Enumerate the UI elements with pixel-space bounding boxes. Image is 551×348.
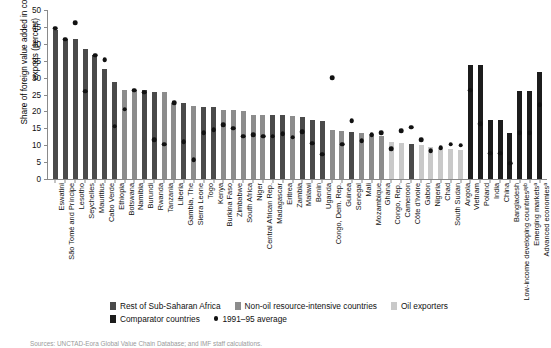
bar: [92, 55, 97, 179]
average-dot: [182, 140, 187, 145]
x-tick-label: Advanced economiesᵃ: [543, 183, 551, 256]
average-dot: [251, 133, 256, 138]
bar: [438, 148, 443, 179]
x-tick-label: Cameroon: [404, 183, 412, 218]
average-dot: [191, 158, 196, 163]
bar: [211, 107, 216, 179]
x-tick-label: Bangladesh: [513, 183, 521, 222]
x-tick-label: Chad: [444, 183, 452, 201]
y-axis-title: Share of foreign value added in countrie…: [19, 0, 41, 137]
average-dot: [83, 89, 88, 94]
bar: [409, 144, 414, 179]
x-tick-label: Kenya: [217, 183, 225, 204]
average-dot: [290, 135, 295, 140]
average-dot: [73, 20, 78, 25]
average-dot: [132, 88, 137, 93]
bar: [399, 143, 404, 179]
bar: [498, 120, 503, 179]
bar: [320, 121, 325, 179]
x-tick-label: Niger: [256, 183, 264, 201]
average-dot: [280, 132, 285, 137]
average-dot: [221, 123, 226, 128]
x-tick-label: Eritrea: [286, 183, 294, 205]
average-dot: [320, 152, 325, 157]
y-tick-mark: [44, 162, 47, 163]
bar: [290, 116, 295, 179]
x-tick-label: Congo, Dem. Rep.: [335, 183, 343, 244]
x-tick-label: Lesotho: [78, 183, 86, 209]
x-tick-label: Burkina Faso: [226, 183, 234, 227]
bar: [251, 115, 256, 179]
average-dot: [93, 53, 98, 58]
bar: [63, 39, 68, 179]
x-tick-label: Gambia, The: [187, 183, 195, 226]
x-tick-label: Botswana: [128, 183, 136, 215]
average-dot: [162, 142, 167, 147]
bar: [102, 69, 107, 179]
average-dot: [419, 138, 424, 143]
y-tick-mark: [44, 128, 47, 129]
x-axis-labels: EswatiniSão Tomé and PríncipeLesothoSeyc…: [47, 183, 547, 291]
x-tick-label: Sierra Leone: [197, 183, 205, 225]
plot-area: 05101520253035404550: [47, 10, 547, 179]
x-tick-label: Cabo Verde: [108, 183, 116, 222]
bar: [330, 130, 335, 179]
y-tick-mark: [44, 61, 47, 62]
average-dot: [53, 26, 58, 31]
legend-item[interactable]: Non-oil resource-intensive countries: [235, 301, 377, 311]
bar: [83, 49, 88, 179]
legend-row-secondary: Comparator countries1991–95 average: [110, 312, 530, 325]
x-tick-label: Liberia: [177, 183, 185, 205]
x-tick-label: Senegal: [355, 183, 363, 210]
x-tick-label: Mali: [365, 183, 373, 197]
average-dot: [409, 125, 414, 130]
y-tick-mark: [44, 44, 47, 45]
source-note: Sources: UNCTAD-Eora Global Value Chain …: [30, 340, 262, 347]
bar: [260, 115, 265, 179]
legend-dot-icon: [214, 316, 219, 321]
legend-item[interactable]: Comparator countries: [110, 314, 200, 324]
x-tick-label: Low-income developing countriesᵃʸᵇ: [523, 183, 531, 301]
bar: [132, 90, 137, 179]
legend-swatch-icon: [235, 302, 241, 310]
y-tick-label: 35: [21, 56, 41, 65]
y-tick-label: 50: [21, 6, 41, 15]
y-tick-mark: [44, 27, 47, 28]
x-tick-label: Zimbabwe: [236, 183, 244, 217]
x-tick-label: Emerging marketsᵃ: [533, 183, 541, 246]
x-tick-label: South Sudan: [454, 183, 462, 226]
bar: [122, 90, 127, 179]
average-dot: [498, 151, 503, 156]
x-tick-label: Nigeria: [434, 183, 442, 206]
y-tick-label: 0: [21, 175, 41, 184]
bar: [369, 134, 374, 179]
x-tick-label: Rwanda: [157, 183, 165, 210]
average-dot: [103, 57, 108, 62]
legend-item[interactable]: Rest of Sub-Saharan Africa: [110, 301, 221, 311]
legend-item[interactable]: Oil exporters: [391, 301, 448, 311]
x-tick-label: Mozambique: [375, 183, 383, 225]
bar: [171, 103, 176, 179]
y-tick-label: 5: [21, 158, 41, 167]
x-tick-label: Benin: [315, 183, 323, 202]
legend-item[interactable]: 1991–95 average: [214, 314, 287, 324]
y-tick-mark: [44, 145, 47, 146]
bar: [53, 30, 58, 179]
average-dot: [359, 139, 364, 144]
average-dot: [172, 100, 177, 105]
average-dot: [350, 118, 355, 123]
bar: [448, 149, 453, 179]
bar: [488, 120, 493, 179]
legend-row-primary: Rest of Sub-Saharan AfricaNon-oil resour…: [110, 299, 530, 312]
x-tick-label: Ghana: [384, 183, 392, 205]
average-dot: [241, 134, 246, 139]
x-tick-label: Togo: [207, 183, 215, 199]
average-dot: [310, 141, 315, 146]
bar: [241, 111, 246, 179]
bar: [458, 150, 463, 179]
chart-legend: Rest of Sub-Saharan AfricaNon-oil resour…: [110, 299, 530, 325]
y-tick-label: 25: [21, 90, 41, 99]
y-tick-mark: [44, 95, 47, 96]
legend-label: Comparator countries: [120, 314, 200, 324]
average-dot: [399, 128, 404, 133]
